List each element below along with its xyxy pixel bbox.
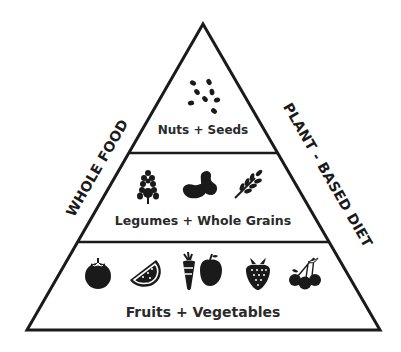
seeds-icon: [184, 78, 224, 118]
watermelon-icon: [128, 256, 164, 288]
food-pyramid-diagram: Nuts + Seeds Legumes + Whol: [0, 0, 401, 352]
cherries-icon: [288, 256, 322, 290]
carrot-apple-icon: [180, 252, 224, 292]
wheat-icon: [233, 168, 265, 200]
tomato-icon: [82, 256, 114, 290]
tier-label-legumes-grains: Legumes + Whole Grains: [115, 213, 291, 228]
beans-icon: [180, 169, 220, 201]
corn-icon: [136, 169, 160, 205]
tier-label-fruits-vegetables: Fruits + Vegetables: [126, 304, 281, 320]
tier-label-nuts-seeds: Nuts + Seeds: [158, 123, 249, 137]
strawberry-icon: [244, 256, 272, 292]
